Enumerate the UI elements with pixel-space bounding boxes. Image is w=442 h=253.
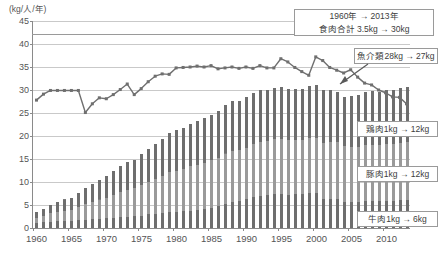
x-tick-mark-2010 [383, 228, 384, 231]
seafood-point-1981 [182, 66, 185, 69]
seafood-point-1960 [35, 99, 38, 102]
y-tick-label-35: 35 [19, 62, 29, 72]
seafood-point-1984 [203, 66, 206, 69]
seafood-point-2009 [377, 89, 380, 92]
seafood-point-1971 [112, 93, 115, 96]
seafood-point-1990 [244, 66, 247, 69]
annotation-pork-line1: 豚肉1kg → 12kg [366, 168, 429, 180]
seafood-point-1987 [223, 66, 226, 69]
seafood-point-1964 [63, 89, 66, 92]
seafood-point-1974 [133, 93, 136, 96]
y-tick-label-15: 15 [19, 154, 29, 164]
gridline-0 [33, 228, 410, 229]
x-tick-mark-1980 [173, 228, 174, 231]
seafood-point-1962 [49, 89, 52, 92]
seafood-point-1980 [175, 66, 178, 69]
seafood-point-1986 [217, 67, 220, 70]
seafood-point-1992 [258, 64, 261, 67]
seafood-point-2013 [405, 102, 408, 105]
x-tick-mark-2000 [313, 228, 314, 231]
y-tick-label-40: 40 [19, 39, 29, 49]
x-tick-label-1975: 1975 [131, 233, 152, 244]
seafood-point-1973 [126, 83, 129, 86]
seafood-point-1970 [105, 97, 108, 100]
y-tick-label-25: 25 [19, 108, 29, 118]
annotation-beef: 牛肉1kg → 6kg [357, 211, 438, 227]
x-tick-label-1970: 1970 [96, 233, 117, 244]
seafood-point-1996 [286, 60, 289, 63]
seafood-point-2000 [314, 55, 317, 58]
y-tick-label-0: 0 [24, 223, 29, 233]
seafood-point-1969 [98, 96, 101, 99]
x-tick-label-2010: 2010 [376, 233, 397, 244]
y-tick-label-45: 45 [19, 16, 29, 26]
seafood-point-1982 [189, 66, 192, 69]
seafood-point-1978 [161, 72, 164, 75]
seafood-point-1968 [91, 102, 94, 105]
seafood-point-1972 [119, 88, 122, 91]
x-tick-mark-1990 [243, 228, 244, 231]
seafood-point-2008 [370, 83, 373, 86]
annotation-total-meat: 1960年 → 2013年 食肉合計 3.5kg → 30kg [294, 9, 434, 36]
x-tick-mark-1985 [208, 228, 209, 231]
chart-container: (kg/人/年) 051015202530354045 196019651970… [0, 0, 442, 253]
annotation-pork: 豚肉1kg → 12kg [357, 166, 438, 182]
seafood-point-1997 [293, 66, 296, 69]
seafood-point-1963 [56, 89, 59, 92]
y-axis-unit-label: (kg/人/年) [9, 2, 46, 14]
x-tick-mark-1970 [103, 228, 104, 231]
y-tick-label-20: 20 [19, 131, 29, 141]
x-tick-mark-1995 [278, 228, 279, 231]
seafood-point-2012 [398, 96, 401, 99]
seafood-point-1966 [77, 89, 80, 92]
x-tick-label-2005: 2005 [341, 233, 362, 244]
annotation-total-meat-line2: 食肉合計 3.5kg → 30kg [319, 23, 410, 35]
y-tick-label-30: 30 [19, 85, 29, 95]
x-tick-mark-1975 [138, 228, 139, 231]
seafood-point-1989 [237, 67, 240, 70]
annotation-chicken: 鶏肉1kg → 12kg [357, 121, 438, 137]
x-tick-label-2000: 2000 [306, 233, 327, 244]
annotation-seafood-line1: 魚介類28kg → 27kg [357, 50, 434, 62]
x-tick-label-1990: 1990 [236, 233, 257, 244]
seafood-point-1995 [279, 57, 282, 60]
seafood-point-1983 [196, 65, 199, 68]
seafood-point-1994 [272, 66, 275, 69]
seafood-point-1977 [154, 75, 157, 78]
seafood-point-1979 [168, 73, 171, 76]
seafood-point-1967 [84, 111, 87, 114]
x-tick-label-1980: 1980 [166, 233, 187, 244]
annotation-total-meat-line1: 1960年 → 2013年 [329, 10, 398, 22]
annotation-beef-line1: 牛肉1kg → 6kg [368, 213, 427, 225]
annotation-chicken-line1: 鶏肉1kg → 12kg [366, 123, 429, 135]
x-tick-label-1960: 1960 [26, 233, 47, 244]
annotation-seafood-arrow [330, 62, 370, 88]
seafood-point-1965 [70, 89, 73, 92]
seafood-point-1988 [230, 66, 233, 69]
x-tick-mark-2005 [348, 228, 349, 231]
seafood-point-1999 [307, 74, 310, 77]
x-tick-label-1995: 1995 [271, 233, 292, 244]
seafood-point-2001 [321, 59, 324, 62]
x-tick-mark-1965 [68, 228, 69, 231]
y-tick-label-5: 5 [24, 200, 29, 210]
x-tick-label-1985: 1985 [201, 233, 222, 244]
seafood-point-1993 [265, 66, 268, 69]
seafood-point-1975 [140, 87, 143, 90]
seafood-point-1985 [210, 64, 213, 67]
seafood-point-2010 [384, 91, 387, 94]
seafood-point-1961 [42, 93, 45, 96]
seafood-point-1991 [251, 67, 254, 70]
x-tick-mark-1960 [33, 228, 34, 231]
leader-line-total-meat [32, 34, 294, 35]
seafood-point-1998 [300, 70, 303, 73]
y-tick-label-10: 10 [19, 177, 29, 187]
seafood-point-1976 [147, 80, 150, 83]
seafood-point-2011 [391, 95, 394, 98]
x-tick-label-1965: 1965 [61, 233, 82, 244]
